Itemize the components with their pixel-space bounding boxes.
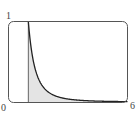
shaded-area (28, 22, 127, 103)
plot-frame (9, 22, 128, 103)
plot-area (0, 0, 138, 118)
